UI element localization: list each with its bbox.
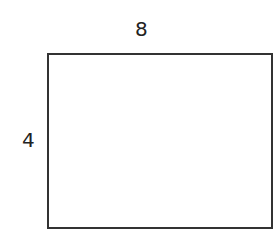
rectangle-shape	[47, 53, 273, 229]
width-label: 8	[135, 19, 148, 39]
height-label: 4	[22, 130, 35, 150]
